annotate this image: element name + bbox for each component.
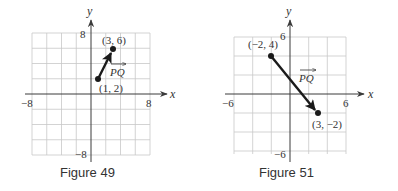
y-min-tick-label: −8 — [75, 148, 87, 160]
y-max-tick-label: 6 — [280, 30, 286, 42]
y-axis-label: y — [86, 4, 93, 18]
x-max-tick-label: 8 — [146, 97, 152, 109]
x-min-tick-label: −8 — [21, 97, 33, 109]
figure-49-caption: Figure 49 — [60, 165, 115, 180]
figures-canvas: x y −8 8 8 −8 (3, 6) (1, 2) PQ — [0, 0, 398, 191]
point-q — [315, 110, 321, 116]
y-max-tick-label: 8 — [80, 28, 86, 40]
figure-51-caption: Figure 51 — [259, 165, 314, 180]
x-min-tick-label: −6 — [222, 97, 234, 109]
svg-text:PQ: PQ — [109, 66, 125, 78]
x-max-tick-label: 6 — [343, 97, 349, 109]
point-q — [110, 46, 116, 52]
point-q-label: (3, −2) — [312, 118, 342, 131]
y-axis-label: y — [285, 4, 292, 18]
svg-text:PQ: PQ — [298, 72, 314, 84]
y-min-tick-label: −6 — [274, 148, 286, 160]
point-p-label: (−2, 4) — [248, 38, 278, 51]
point-p-label: (1, 2) — [99, 82, 123, 95]
vector-label: PQ — [109, 64, 126, 78]
vector-label: PQ — [298, 70, 316, 84]
point-p — [268, 53, 274, 59]
x-axis-label: x — [169, 87, 176, 101]
x-axis-label: x — [367, 87, 374, 101]
point-q-label: (3, 6) — [102, 34, 126, 47]
figure-49: x y −8 8 8 −8 (3, 6) (1, 2) PQ — [21, 4, 176, 162]
figure-51: x y −6 6 6 −6 (−2, 4) (3, −2) PQ — [222, 4, 374, 162]
